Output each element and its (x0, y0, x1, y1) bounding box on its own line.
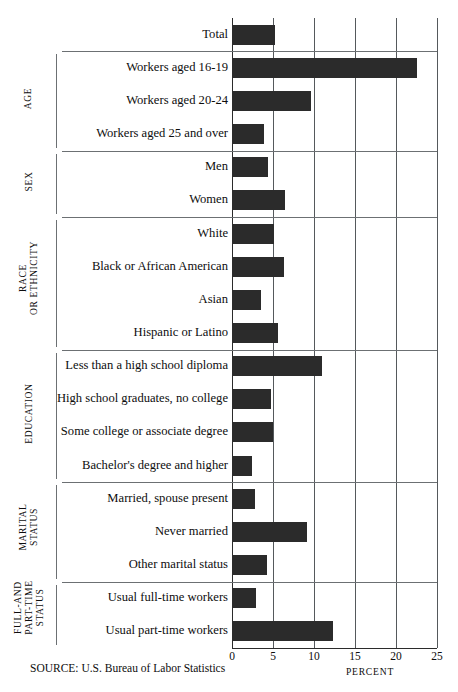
source-note: SOURCE: U.S. Bureau of Labor Statistics (30, 662, 225, 674)
category-label: Workers aged 16-19 (0, 60, 232, 75)
group-bracket (56, 585, 57, 645)
bar (232, 91, 311, 111)
group-title: RACEOR ETHNICITY (17, 212, 39, 345)
top-rule (62, 18, 437, 19)
bar (232, 124, 264, 144)
gridline-15 (355, 18, 356, 648)
x-axis-line (232, 648, 437, 649)
group-bracket (56, 154, 57, 214)
bar (232, 489, 255, 509)
group-separator (62, 582, 437, 583)
category-label: Women (0, 192, 232, 207)
chart-container: TotalWorkers aged 16-19Workers aged 20-2… (0, 0, 458, 692)
group-title: SEX (23, 148, 34, 214)
group-title: FULL-ANDPART-TIMESTATUS (12, 574, 45, 640)
group-title: AGE (23, 49, 34, 148)
group-title-line: AGE (23, 49, 34, 148)
x-tick-label: 25 (422, 650, 452, 662)
bar (232, 588, 256, 608)
group-title-line: STATUS (34, 574, 45, 640)
bar (232, 323, 278, 343)
x-tick-label: 0 (217, 650, 247, 662)
category-label: Workers aged 25 and over (0, 126, 232, 141)
group-bracket (56, 353, 57, 480)
bar (232, 422, 273, 442)
category-label: Bachelor's degree and higher (0, 458, 232, 473)
x-tick-label: 10 (299, 650, 329, 662)
group-bracket (56, 54, 57, 147)
category-label: Less than a high school diploma (0, 358, 232, 373)
group-title-line: EDUCATION (23, 347, 34, 480)
bar (232, 456, 252, 476)
group-separator (62, 51, 437, 52)
group-title-line: MARITAL (17, 477, 28, 576)
category-label: Men (0, 159, 232, 174)
group-title-line: SEX (23, 148, 34, 214)
gridline-25 (437, 18, 438, 648)
group-title-line: STATUS (28, 477, 39, 576)
x-tick-label: 5 (258, 650, 288, 662)
x-tick-label: 15 (340, 650, 370, 662)
bar (232, 621, 333, 641)
group-separator (62, 482, 437, 483)
bar (232, 190, 285, 210)
group-title-line: OR ETHNICITY (28, 212, 39, 345)
group-separator (62, 151, 437, 152)
group-title: EDUCATION (23, 347, 34, 480)
group-bracket (56, 485, 57, 578)
group-title-line: FULL-AND (12, 574, 23, 640)
plot-area (232, 18, 437, 648)
group-title: MARITALSTATUS (17, 477, 39, 576)
group-bracket (56, 220, 57, 347)
group-separator (62, 350, 437, 351)
group-title-line: RACE (17, 212, 28, 345)
bar (232, 224, 274, 244)
x-axis-title: PERCENT (300, 666, 440, 677)
bar (232, 257, 284, 277)
gridline-10 (314, 18, 315, 648)
bar (232, 555, 267, 575)
group-title-line: PART-TIME (23, 574, 34, 640)
category-label: Total (0, 27, 232, 42)
category-label: Some college or associate degree (0, 424, 232, 439)
category-label: High school graduates, no college (0, 391, 232, 406)
bar (232, 290, 261, 310)
bar (232, 25, 275, 45)
bar (232, 389, 271, 409)
category-label: Workers aged 20-24 (0, 93, 232, 108)
gridline-20 (396, 18, 397, 648)
bar (232, 157, 268, 177)
group-separator (62, 217, 437, 218)
bar (232, 522, 307, 542)
bar (232, 356, 322, 376)
bar (232, 58, 417, 78)
x-tick-label: 20 (381, 650, 411, 662)
